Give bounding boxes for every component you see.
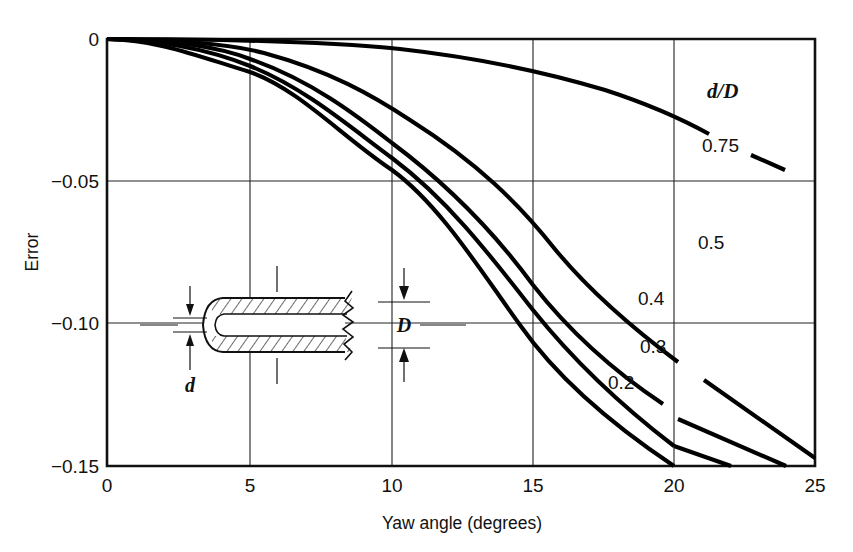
dimension-D: D <box>378 268 466 382</box>
inset-label-d: d <box>185 374 196 396</box>
d-arrow-down <box>186 304 194 316</box>
x-tick-labels: 0 5 10 15 20 25 <box>102 475 826 496</box>
xtick-0: 0 <box>102 475 113 496</box>
ytick-0: 0 <box>88 29 99 50</box>
curve-label-0_75: 0.75 <box>702 135 739 156</box>
xtick-25: 25 <box>804 475 825 496</box>
x-axis-title: Yaw angle (degrees) <box>382 513 542 533</box>
curve-0_2 <box>107 39 674 466</box>
ytick-minus005: −0.05 <box>51 171 99 192</box>
pitot-tube-schematic: d D <box>140 266 466 396</box>
xtick-15: 15 <box>522 475 543 496</box>
D-arrow-down <box>399 286 409 300</box>
curve-label-0_4: 0.4 <box>638 288 665 309</box>
curve-0_4 <box>107 39 786 466</box>
dimension-d: d <box>140 286 207 396</box>
y-axis-title: Error <box>22 232 42 271</box>
xtick-5: 5 <box>245 475 256 496</box>
figure-container: 0.75 0.5 0.4 0.3 0.2 d/D 0 −0.05 −0.10 −… <box>0 0 853 552</box>
legend-title-d-over-D: d/D <box>707 79 739 103</box>
D-arrow-up <box>399 348 409 362</box>
ytick-minus015: −0.15 <box>51 456 99 477</box>
curve-label-0_2: 0.2 <box>608 372 634 393</box>
y-tick-labels: 0 −0.05 −0.10 −0.15 <box>51 29 99 477</box>
inset-label-D: D <box>396 314 411 336</box>
curve-label-0_3: 0.3 <box>640 336 666 357</box>
xtick-10: 10 <box>381 475 402 496</box>
curve-label-0_5: 0.5 <box>698 232 724 253</box>
error-vs-yaw-angle-chart: 0.75 0.5 0.4 0.3 0.2 d/D 0 −0.05 −0.10 −… <box>0 0 853 552</box>
xtick-20: 20 <box>663 475 684 496</box>
ytick-minus010: −0.10 <box>51 313 99 334</box>
